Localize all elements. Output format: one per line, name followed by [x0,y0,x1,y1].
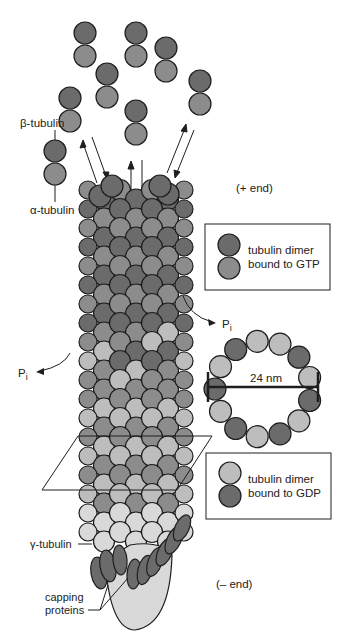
pi-right-label: Pi [222,318,232,333]
labelled-dimer [44,140,66,185]
microtubule-diagram: β-tubulin α-tubulin γ-tubulin capping pr… [0,0,347,640]
free-dimer [125,22,147,67]
pi-arrowhead-left [36,368,44,375]
gamma-tubulin-label: γ-tubulin [30,538,72,550]
legend-gtp-line2: bound to GTP [248,258,320,270]
gdp-beta-swatch [219,462,241,484]
capping-label-line2: proteins [45,604,85,616]
legend-gtp-line1: tubulin dimer [248,244,314,256]
free-dimer [125,100,147,145]
free-dimer [74,22,96,67]
capping-label-line1: capping [45,591,84,603]
alpha-tubulin-label: α-tubulin [30,204,74,216]
legend-gdp-line1: tubulin dimer [248,473,314,485]
legend-gdp-line2: bound to GDP [248,487,321,499]
minus-end-label: (– end) [216,578,253,590]
legend-gdp: tubulin dimer bound to GDP [206,453,331,519]
free-dimer [96,63,118,108]
gtp-beta-swatch [218,234,240,256]
free-dimers [44,22,211,185]
pi-left-label: Pi [18,367,28,382]
cross-section-ring [204,330,321,447]
pi-arrowhead-right [208,319,216,326]
gtp-alpha-swatch [218,257,240,279]
free-dimer [189,70,211,115]
diameter-label: 24 nm [250,372,282,384]
pi-arrow-left [40,353,70,371]
beta-tubulin-label: β-tubulin [20,117,64,129]
microtubule [79,175,193,552]
gdp-alpha-swatch [219,485,241,507]
free-dimer [155,37,177,82]
legend-gtp: tubulin dimer bound to GTP [205,224,330,290]
plus-end-label: (+ end) [236,182,273,194]
